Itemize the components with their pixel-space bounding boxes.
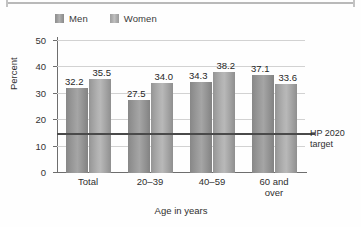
y-tick-label-0: 0 [41, 167, 46, 178]
top-divider-right-cap [353, 0, 355, 7]
men-swatch-icon [55, 14, 64, 23]
top-divider-rule [6, 2, 355, 4]
chart-figure: Men Women Percent 50 40 30 20 10 [0, 0, 361, 227]
hp-2020-target-label-line1: HP 2020 [310, 128, 345, 139]
bar-total-women[interactable]: 35.5 [89, 79, 111, 173]
chart-legend: Men Women [55, 13, 157, 24]
legend-label-women: Women [124, 13, 157, 24]
y-tick-label-20: 20 [35, 114, 46, 125]
x-label-total-line1: Total [57, 176, 119, 187]
hp-2020-target-line [57, 133, 315, 135]
y-tick-label-50: 50 [35, 35, 46, 46]
bar-40-59-men[interactable]: 34.3 [190, 82, 212, 173]
bar-40-59-women[interactable]: 38.2 [213, 72, 235, 173]
x-label-40-59-line1: 40–59 [181, 176, 243, 187]
bar-60-and-over-women[interactable]: 33.6 [275, 84, 297, 173]
x-label-20-39-line1: 20–39 [119, 176, 181, 187]
bar-value-40-59-men: 34.3 [189, 70, 208, 81]
bar-value-total-women: 35.5 [92, 67, 111, 78]
top-divider-left-cap [6, 0, 8, 7]
bar-wrap-total-men: 32.2 [66, 41, 88, 173]
x-label-60-and-over: 60 and over [243, 176, 305, 198]
bar-group-20-39: 27.5 34.0 [119, 41, 181, 173]
bar-value-20-39-men: 27.5 [127, 88, 146, 99]
x-axis-labels: Total 20–39 40–59 60 and over [57, 176, 305, 198]
bar-20-39-women[interactable]: 34.0 [151, 83, 173, 173]
y-axis-title: Percent [8, 57, 19, 90]
y-tick-label-10: 10 [35, 140, 46, 151]
legend-label-men: Men [69, 13, 88, 24]
bar-60-and-over-men[interactable]: 37.1 [252, 75, 274, 173]
bar-value-60-and-over-women: 33.6 [278, 72, 297, 83]
x-label-40-59: 40–59 [181, 176, 243, 198]
bar-group-total: 32.2 35.5 [57, 41, 119, 173]
plot-area: 50 40 30 20 10 0 32.2 [57, 41, 305, 173]
x-label-total: Total [57, 176, 119, 198]
x-label-60-and-over-line2: over [243, 187, 305, 198]
x-axis-title: Age in years [57, 205, 305, 216]
x-label-20-39: 20–39 [119, 176, 181, 198]
women-swatch-icon [110, 14, 119, 23]
bar-wrap-40-59-women: 38.2 [213, 41, 235, 173]
y-tick-label-30: 30 [35, 87, 46, 98]
hp-2020-target-label: HP 2020 target [310, 128, 345, 149]
legend-item-women: Women [110, 13, 157, 24]
bar-value-60-and-over-men: 37.1 [251, 63, 270, 74]
y-tick-label-40: 40 [35, 61, 46, 72]
bar-wrap-60-and-over-men: 37.1 [252, 41, 274, 173]
bar-20-39-men[interactable]: 27.5 [128, 100, 150, 173]
hp-2020-target-label-line2: target [310, 139, 345, 150]
bar-value-40-59-women: 38.2 [216, 60, 235, 71]
bar-wrap-20-39-men: 27.5 [128, 41, 150, 173]
x-label-60-and-over-line1: 60 and [243, 176, 305, 187]
legend-item-men: Men [55, 13, 88, 24]
bar-wrap-60-and-over-women: 33.6 [275, 41, 297, 173]
bar-value-20-39-women: 34.0 [154, 71, 173, 82]
bar-group-40-59: 34.3 38.2 [181, 41, 243, 173]
bar-groups: 32.2 35.5 27.5 34.0 [57, 41, 305, 173]
bar-wrap-40-59-men: 34.3 [190, 41, 212, 173]
bar-wrap-20-39-women: 34.0 [151, 41, 173, 173]
bar-value-total-men: 32.2 [65, 76, 84, 87]
bar-wrap-total-women: 35.5 [89, 41, 111, 173]
bar-group-60-and-over: 37.1 33.6 [243, 41, 305, 173]
bar-total-men[interactable]: 32.2 [66, 88, 88, 173]
